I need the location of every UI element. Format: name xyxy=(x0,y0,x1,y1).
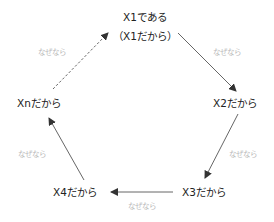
node-x1-subtitle: （X1だから） xyxy=(113,31,177,42)
node-x2: X2だから xyxy=(213,98,257,109)
node-x3: X3だから xyxy=(182,187,226,198)
edge-label-x3-x4: なぜなら xyxy=(128,203,156,211)
node-x4: X4だから xyxy=(53,187,97,198)
edge-xn-x1 xyxy=(53,33,108,89)
edge-x4-xn xyxy=(49,118,84,180)
edge-x2-x3 xyxy=(205,114,238,178)
edge-label-xn-x1: なぜなら xyxy=(38,49,66,57)
edge-label-x2-x3: なぜなら xyxy=(229,151,257,159)
edge-label-x1-x2: なぜなら xyxy=(213,49,241,57)
node-x1-title: X1である xyxy=(123,12,167,23)
edge-x1-x2 xyxy=(178,33,236,91)
edge-label-x4-xn: なぜなら xyxy=(18,151,46,159)
node-xn: Xnだから xyxy=(17,98,61,109)
